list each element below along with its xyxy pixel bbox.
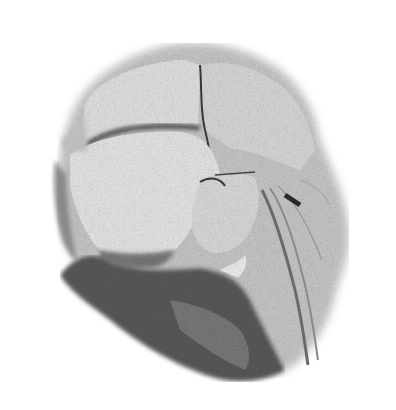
- anatomical-illustration: [0, 0, 396, 410]
- illustration: [0, 0, 396, 410]
